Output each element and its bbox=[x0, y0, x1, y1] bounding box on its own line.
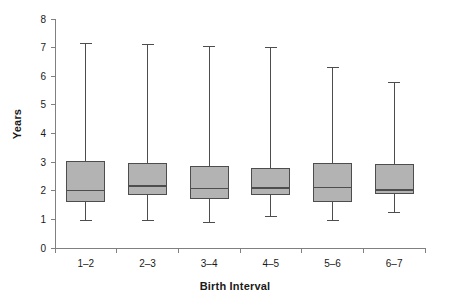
y-axis-tick-label: 4 bbox=[40, 128, 46, 139]
box-iqr bbox=[314, 164, 352, 202]
box-plot-group bbox=[314, 67, 352, 220]
box-plot-group bbox=[375, 83, 413, 213]
x-axis-category-label: 5–6 bbox=[324, 258, 341, 269]
y-axis-tick-label: 2 bbox=[40, 185, 46, 196]
box-iqr bbox=[252, 168, 290, 194]
y-axis-tick-label: 5 bbox=[40, 99, 46, 110]
x-axis-category-label: 3–4 bbox=[201, 258, 218, 269]
box-iqr bbox=[190, 166, 228, 198]
x-axis-category-label: 4–5 bbox=[262, 258, 279, 269]
box-iqr bbox=[129, 164, 167, 195]
x-axis-category-label: 2–3 bbox=[139, 258, 156, 269]
y-axis-tick-label: 7 bbox=[40, 42, 46, 53]
box-iqr bbox=[375, 164, 413, 193]
plot-area: 0123456781–22–33–44–55–66–7 bbox=[0, 0, 463, 306]
box-plot-group bbox=[252, 47, 290, 216]
box-plot-group bbox=[67, 43, 105, 220]
box-plot-group bbox=[190, 46, 228, 223]
box-plot-group bbox=[129, 45, 167, 220]
box-plot-chart: 0123456781–22–33–44–55–66–7 Years Birth … bbox=[0, 0, 463, 306]
y-axis-tick-label: 0 bbox=[40, 243, 46, 254]
x-axis-category-label: 6–7 bbox=[386, 258, 403, 269]
y-axis-tick-label: 3 bbox=[40, 157, 46, 168]
y-axis-tick-label: 6 bbox=[40, 71, 46, 82]
box-iqr bbox=[67, 161, 105, 201]
y-axis-tick-label: 8 bbox=[40, 14, 46, 25]
x-axis-category-label: 1–2 bbox=[77, 258, 94, 269]
y-axis-tick-label: 1 bbox=[40, 214, 46, 225]
